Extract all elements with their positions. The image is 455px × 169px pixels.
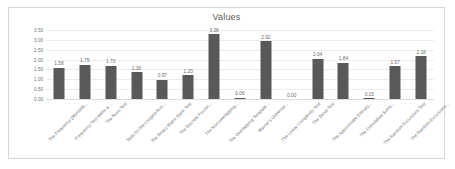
chart-title: Values [9, 12, 444, 22]
category-slot: The Random Excursions... [408, 100, 434, 156]
bar[interactable] [53, 68, 64, 99]
category-slot: The Serial Test [305, 100, 331, 156]
y-axis-tick-label: 0.00 [34, 97, 43, 102]
y-axis-tick-label: 2.50 [34, 47, 43, 52]
bar-slot: 1.58 [46, 30, 72, 99]
category-slot: The Cumulative Sums... [356, 100, 382, 156]
category-slot: The Overlapping Template... [227, 100, 253, 156]
bar-slot: 0.00 [279, 30, 305, 99]
y-axis-tick-label: 1.50 [34, 67, 43, 72]
bar[interactable] [390, 66, 401, 99]
bar-slot: 0.97 [149, 30, 175, 99]
category-slot: Maurer's Universal... [253, 100, 279, 156]
bar-value-label: 0.00 [287, 93, 296, 98]
bar-slot: 0.03 [356, 30, 382, 99]
category-slot: The Discrete Fourier... [175, 100, 201, 156]
y-axis-tick-label: 3.00 [34, 37, 43, 42]
bar-value-label: 3.28 [209, 28, 218, 33]
bar[interactable] [312, 59, 323, 99]
category-slot: Tests for the Longest-Run... [124, 100, 150, 156]
category-slot: Frequency Test within a ... [72, 100, 98, 156]
bar[interactable] [416, 56, 427, 99]
bar[interactable] [364, 98, 375, 99]
category-slot: The Random Excursions Test [382, 100, 408, 156]
category-slot: The Runs Test [98, 100, 124, 156]
bar-value-label: 2.18 [416, 50, 425, 55]
bar[interactable] [157, 80, 168, 99]
category-slot: The Frequency (Monobit)... [46, 100, 72, 156]
y-axis-tick-label: 2.00 [34, 57, 43, 62]
chart-container: Values 0.000.501.001.502.002.503.003.50 … [8, 7, 445, 159]
bar-slot: 2.18 [408, 30, 434, 99]
category-slot: The Linear Complexity Test [279, 100, 305, 156]
bar-value-label: 1.58 [54, 61, 63, 66]
bar-value-label: 1.84 [339, 56, 348, 61]
chart-screenshot: Values 0.000.501.001.502.002.503.003.50 … [0, 0, 455, 169]
bar[interactable] [131, 72, 142, 99]
bar-value-label: 1.67 [391, 60, 400, 65]
bar-slot: 1.67 [382, 30, 408, 99]
bar-slot: 1.70 [98, 30, 124, 99]
x-axis-category-labels: The Frequency (Monobit)...Frequency Test… [46, 100, 434, 156]
y-axis-tick-label: 0.50 [34, 87, 43, 92]
bar[interactable] [183, 75, 194, 99]
bar-slot: 1.20 [175, 30, 201, 99]
bar[interactable] [209, 34, 220, 99]
x-axis-tick-label: The Random Excursions... [410, 102, 450, 142]
bar-value-label: 0.03 [365, 92, 374, 97]
bar[interactable] [338, 63, 349, 99]
bar-slot: 1.75 [72, 30, 98, 99]
bar-slot: 2.04 [305, 30, 331, 99]
category-slot: The Binary Matrix Rank Test [149, 100, 175, 156]
category-slot: The Non-overlapping... [201, 100, 227, 156]
bar-value-label: 2.92 [261, 35, 270, 40]
bar[interactable] [234, 98, 245, 99]
bar[interactable] [260, 41, 271, 99]
bar-slot: 3.28 [201, 30, 227, 99]
bar[interactable] [79, 65, 90, 100]
bar-value-label: 1.70 [106, 59, 115, 64]
bar-series: 1.581.751.701.360.971.203.280.062.920.00… [46, 30, 434, 99]
y-axis-tick-label: 1.00 [34, 77, 43, 82]
bar-slot: 2.92 [253, 30, 279, 99]
plot-area: 1.581.751.701.360.971.203.280.062.920.00… [46, 30, 434, 99]
bar-value-label: 1.20 [184, 69, 193, 74]
bar-value-label: 1.75 [80, 58, 89, 63]
bar-slot: 1.84 [331, 30, 357, 99]
bar-value-label: 0.97 [158, 73, 167, 78]
bar-value-label: 2.04 [313, 52, 322, 57]
bar-slot: 0.06 [227, 30, 253, 99]
y-axis-tick-label: 3.50 [34, 28, 43, 33]
bar-value-label: 0.06 [235, 91, 244, 96]
category-slot: The Approximate Entropy... [331, 100, 357, 156]
bar-slot: 1.36 [124, 30, 150, 99]
bar-value-label: 1.36 [132, 66, 141, 71]
bar[interactable] [105, 66, 116, 100]
